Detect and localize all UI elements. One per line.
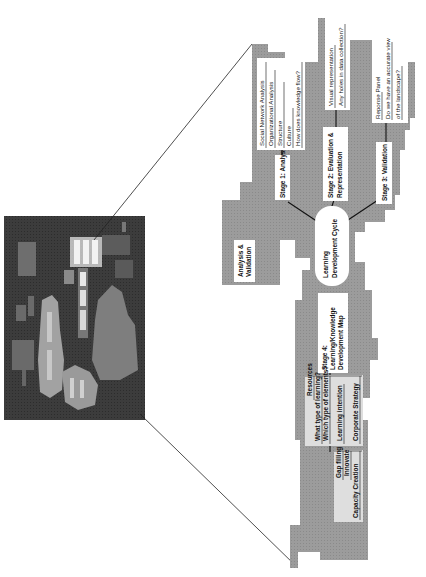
hub-label-line1: Learning — [322, 251, 330, 278]
stage4-box[interactable]: Stage 4: Learning/Knowledge Development … — [318, 293, 348, 373]
detail-org-analysis: Organizational Analysis — [267, 82, 274, 146]
thumbnail-overview — [4, 216, 145, 420]
analysis-details-box[interactable]: Social Network Analysis Organizational A… — [257, 58, 305, 150]
detail-visual-representation: Visual representation — [327, 47, 334, 106]
outcomes-box[interactable]: Gap filling Innovate Capacity Creation — [334, 447, 363, 522]
detail-innovate: Innovate — [343, 449, 350, 476]
detail-learning-intention: Learning intention — [336, 385, 344, 441]
validation-details-box[interactable]: Reponse Panel Do we have an accurate vie… — [372, 34, 408, 123]
analysis-validation-box[interactable]: Analysis & Validation — [234, 240, 255, 282]
resources-box[interactable]: Resources What type of learning? Which t… — [305, 363, 363, 446]
detail-culture: Culture — [285, 125, 292, 146]
detail-data-holes: Any holes in data collection? — [337, 27, 344, 106]
detail-learning-type: What type of learning? — [314, 372, 322, 441]
side-label-line2: Validation — [245, 247, 252, 277]
stage2-box[interactable]: Stage 2: Evaluation & Representation — [323, 127, 348, 201]
hub-label-line2: Development Cycle — [331, 219, 339, 278]
stage1-label: Stage 1: Analysis — [279, 145, 287, 198]
detail-capacity-creation: Capacity Creation — [352, 464, 360, 518]
stage2-label-line1: Stage 2: Evaluation & — [327, 132, 335, 198]
detail-landscape: of the landscape? — [394, 70, 401, 119]
detail-knowledge-flow: How does knowledge flow? — [294, 70, 301, 146]
stage2-label-line2: Representation — [336, 151, 344, 198]
callout-line-bottom — [140, 414, 298, 568]
stage4-label-line3: Development Map — [337, 315, 345, 370]
detail-resources: Resources — [306, 363, 313, 396]
detail-gap-filling: Gap filling — [335, 447, 343, 478]
detail-structure: Structure — [276, 120, 283, 146]
detail-accurate-view: Do we have an accurate view — [384, 38, 391, 119]
detail-social-network: Social Network Analysis — [258, 80, 265, 146]
detail-response-panel: Reponse Panel — [374, 77, 381, 119]
stage4-label-line2: Learning/Knowledge — [329, 307, 337, 370]
evaluation-details-box[interactable]: Visual representation Any holes in data … — [325, 18, 350, 110]
side-label-line1: Analysis & — [237, 244, 245, 277]
diagram-canvas: Stage 1: Analysis Social Network Analysi… — [0, 0, 426, 577]
detail-corporate-strategy: Corporate Strategy — [352, 383, 360, 441]
stage3-box[interactable]: Stage 3: Validation — [376, 142, 392, 204]
stage3-label: Stage 3: Validation — [381, 144, 389, 201]
detail-element-type: Which type of elements? — [322, 366, 330, 441]
learning-development-cycle-hub[interactable]: Learning Development Cycle — [315, 206, 349, 286]
